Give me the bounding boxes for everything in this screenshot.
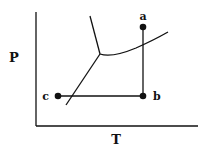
point-a-label: a <box>139 10 146 23</box>
liquid-gas-boundary <box>100 32 168 55</box>
phase-diagram: P T a b c <box>0 0 208 150</box>
point-c-label: c <box>42 90 49 103</box>
point-b <box>140 93 147 100</box>
point-b-label: b <box>153 90 161 103</box>
y-axis-label: P <box>9 50 19 65</box>
solid-liquid-boundary <box>90 16 100 54</box>
point-c <box>55 93 62 100</box>
point-a <box>140 24 147 31</box>
x-axis-label: T <box>111 132 121 147</box>
solid-gas-boundary <box>66 54 100 105</box>
